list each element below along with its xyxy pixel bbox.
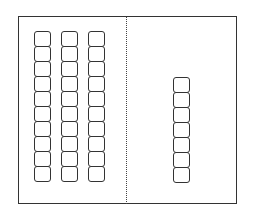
unit-cube xyxy=(61,166,78,182)
unit-cube xyxy=(34,106,51,122)
tens-rod xyxy=(61,31,78,182)
unit-cube xyxy=(88,76,105,92)
unit-cube xyxy=(88,151,105,167)
tens-rod xyxy=(34,31,51,182)
unit-cube xyxy=(61,106,78,122)
unit-cube xyxy=(173,77,190,93)
unit-cube xyxy=(88,61,105,77)
unit-cube xyxy=(61,121,78,137)
unit-cube xyxy=(88,31,105,47)
unit-cube xyxy=(34,76,51,92)
unit-cube xyxy=(61,76,78,92)
unit-cube xyxy=(61,61,78,77)
unit-cube xyxy=(173,122,190,138)
unit-cube xyxy=(88,46,105,62)
unit-cube xyxy=(34,121,51,137)
place-value-divider xyxy=(126,17,127,204)
unit-cube xyxy=(34,91,51,107)
unit-cube xyxy=(34,61,51,77)
unit-cube xyxy=(173,167,190,183)
unit-cube xyxy=(88,166,105,182)
unit-cube xyxy=(34,151,51,167)
unit-cube xyxy=(88,136,105,152)
unit-cube xyxy=(61,46,78,62)
ones-column xyxy=(173,77,190,183)
unit-cube xyxy=(88,106,105,122)
unit-cube xyxy=(173,152,190,168)
unit-cube xyxy=(34,136,51,152)
unit-cube xyxy=(34,166,51,182)
unit-cube xyxy=(61,91,78,107)
unit-cube xyxy=(173,137,190,153)
unit-cube xyxy=(61,151,78,167)
unit-cube xyxy=(61,31,78,47)
tens-rod xyxy=(88,31,105,182)
unit-cube xyxy=(34,46,51,62)
unit-cube xyxy=(34,31,51,47)
unit-cube xyxy=(88,91,105,107)
unit-cube xyxy=(88,121,105,137)
unit-cube xyxy=(173,92,190,108)
unit-cube xyxy=(61,136,78,152)
unit-cube xyxy=(173,107,190,123)
